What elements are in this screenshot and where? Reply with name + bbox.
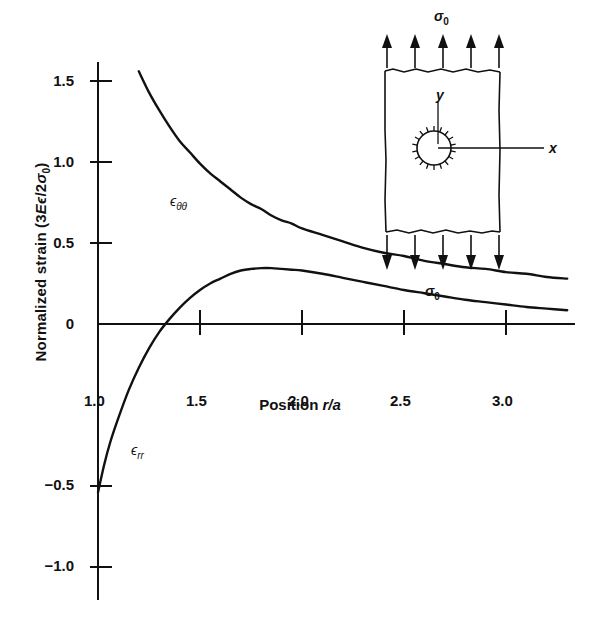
figure-root: Normalized strain (3Eϵ/2σ0) Position r/a… [0,0,589,633]
inset-top-arrows [382,34,504,68]
curve-epsilon-rr [98,268,567,492]
inset-plate-right-edge [499,72,500,232]
inset-bottom-arrows [382,235,504,270]
inset-plate-left-edge [385,71,386,232]
inset-schematic [382,34,544,270]
inset-plate-top-edge [385,69,500,72]
inset-plate-bottom-edge [386,230,500,233]
x-tick-marks [200,310,506,335]
curve-epsilon-theta-theta [139,71,567,278]
chart-canvas [0,0,589,633]
